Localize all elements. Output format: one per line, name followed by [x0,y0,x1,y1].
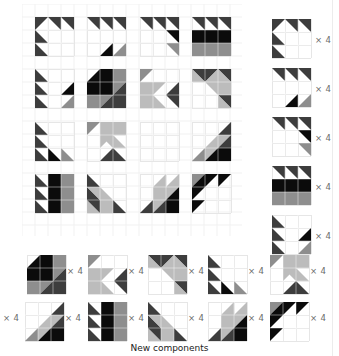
tile-triangle [298,143,311,156]
block-r3-c1 [35,122,75,162]
tile-triangle [218,148,231,161]
tile-triangle [234,302,247,315]
tile-triangle [100,122,113,135]
tile-triangle [88,315,101,328]
tile-triangle [205,43,218,56]
tile-triangle [285,68,298,81]
block-r3-c4 [192,122,232,162]
tile-triangle [192,148,205,161]
tile-triangle [272,215,285,228]
block-r3-c3 [140,122,180,162]
multiplier-label: × 4 [188,266,204,276]
tile-triangle [48,187,61,200]
tile-triangle [272,179,285,192]
block-r1-c4 [192,17,232,57]
tile-triangle [208,268,221,281]
bottom-block-r2-c4 [148,255,188,295]
tile-triangle [174,328,187,341]
tile-triangle [221,315,234,328]
tile-triangle [51,302,64,315]
tile-triangle [88,328,101,341]
tile-triangle [272,68,285,81]
tile-triangle [51,328,64,341]
tile-triangle [298,228,311,241]
tile-triangle [166,43,179,56]
tile-triangle [87,82,100,95]
tile-triangle [48,200,61,213]
multiplier-label: × 4 [315,35,331,45]
tile-triangle [298,19,311,32]
tile-triangle [161,268,174,281]
multiplier-label: × 4 [315,182,331,192]
tile-triangle [192,187,205,200]
side-block-4 [272,166,312,206]
tile-triangle [27,281,40,294]
tile-triangle [221,281,234,294]
tile-triangle [35,82,48,95]
multiplier-label: × 4 [248,266,264,276]
tile-triangle [283,255,296,268]
caption: New components [0,343,339,353]
tile-triangle [48,17,61,30]
tile-triangle [234,281,247,294]
divider-line [332,0,333,356]
bottom-block-r2-c3 [88,255,128,295]
tile-triangle [234,328,247,341]
tile-triangle [272,166,285,179]
tile-triangle [285,179,298,192]
tile-triangle [283,281,296,294]
tile-triangle [298,94,311,107]
tile-triangle [272,117,285,130]
block-r1-c2 [87,17,127,57]
block-r2-c2 [87,69,127,109]
tile-triangle [166,174,179,187]
tile-triangle [192,30,205,43]
tile-triangle [100,135,113,148]
tile-triangle [166,200,179,213]
tile-triangle [35,135,48,148]
tile-triangle [61,187,74,200]
block-r1-c3 [140,17,180,57]
tile-triangle [100,17,113,30]
tile-triangle [296,268,309,281]
tile-triangle [35,69,48,82]
tile-triangle [218,43,231,56]
tile-triangle [296,302,309,315]
tile-triangle [53,281,66,294]
tile-triangle [192,43,205,56]
tile-triangle [101,328,114,341]
tile-triangle [208,328,221,341]
tile-triangle [113,200,126,213]
tile-triangle [208,281,221,294]
tile-triangle [192,17,205,30]
tile-triangle [35,122,48,135]
tile-triangle [218,17,231,30]
tile-triangle [114,328,127,341]
bottom-block-r2-c2 [27,255,67,295]
tile-triangle [35,148,48,161]
tile-triangle [298,166,311,179]
multiplier-label: × 4 [128,313,144,323]
tile-triangle [100,43,113,56]
block-r2-c3 [140,69,180,109]
tile-triangle [88,302,101,315]
side-block-3 [272,117,312,157]
tile-triangle [113,95,126,108]
tile-triangle [298,68,311,81]
block-r4-c1 [35,174,75,214]
tile-triangle [285,117,298,130]
tile-triangle [272,192,285,205]
tile-triangle [87,17,100,30]
bottom2-block-r4-c3 [208,302,248,342]
tile-triangle [100,187,113,200]
tile-triangle [35,95,48,108]
tile-triangle [88,281,101,294]
tile-triangle [114,302,127,315]
tile-triangle [140,82,153,95]
tile-triangle [166,95,179,108]
bottom2-block-r3-c4 [25,302,65,342]
tile-triangle [298,179,311,192]
side-block-5 [272,215,312,255]
tile-triangle [48,174,61,187]
tile-triangle [161,328,174,341]
